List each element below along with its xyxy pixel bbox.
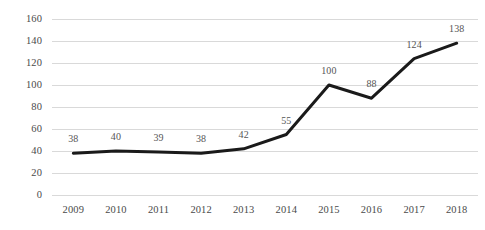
x-axis-tick-label: 2012 [179,204,223,215]
y-axis-tick-label: 80 [12,101,42,112]
x-axis-tick-label: 2013 [222,204,266,215]
x-axis-tick-label: 2010 [94,204,138,215]
y-axis-tick-label: 140 [12,35,42,46]
chart-plot-area [0,0,485,230]
x-axis-tick-label: 2009 [51,204,95,215]
data-point-label: 88 [355,78,389,89]
y-axis-tick-label: 120 [12,57,42,68]
y-axis-tick-label: 60 [12,123,42,134]
y-axis-tick-label: 160 [12,13,42,24]
data-point-label: 40 [99,131,133,142]
x-axis-tick-label: 2014 [264,204,308,215]
data-point-label: 55 [269,115,303,126]
x-axis-tick-label: 2017 [392,204,436,215]
data-point-label: 138 [440,23,474,34]
data-point-label: 124 [397,39,431,50]
x-axis-tick-label: 2016 [350,204,394,215]
data-point-label: 100 [312,65,346,76]
x-axis-tick-label: 2018 [435,204,479,215]
y-axis-tick-label: 20 [12,167,42,178]
line-chart: 020406080100120140160 200920102011201220… [0,0,485,230]
y-axis-tick-label: 40 [12,145,42,156]
data-point-label: 38 [184,133,218,144]
data-point-label: 42 [227,129,261,140]
x-axis-tick-label: 2015 [307,204,351,215]
y-axis-tick-label: 100 [12,79,42,90]
data-point-label: 39 [142,132,176,143]
data-point-label: 38 [56,133,90,144]
x-axis-tick-label: 2011 [137,204,181,215]
y-axis-tick-label: 0 [12,189,42,200]
